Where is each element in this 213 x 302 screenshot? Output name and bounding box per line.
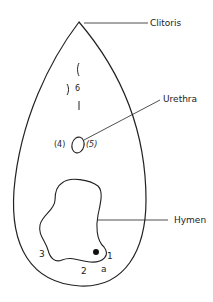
urethra-shape bbox=[70, 136, 86, 155]
marker-4: (4) bbox=[54, 141, 65, 149]
mark-left bbox=[67, 84, 69, 95]
marker-3: 3 bbox=[39, 250, 45, 259]
vulva-outline bbox=[14, 22, 146, 286]
label-clitoris: Clitoris bbox=[150, 19, 181, 28]
label-hymen: Hymen bbox=[174, 216, 206, 225]
marker-5: (5) bbox=[86, 141, 97, 149]
marker-1: 1 bbox=[107, 252, 113, 261]
marker-6: 6 bbox=[75, 85, 80, 93]
marker-2: 2 bbox=[81, 267, 87, 276]
label-urethra: Urethra bbox=[163, 95, 197, 104]
mark-upper bbox=[78, 63, 80, 76]
urethra-leader bbox=[84, 100, 160, 140]
marker-a: a bbox=[101, 265, 107, 274]
position-dot bbox=[93, 249, 99, 255]
